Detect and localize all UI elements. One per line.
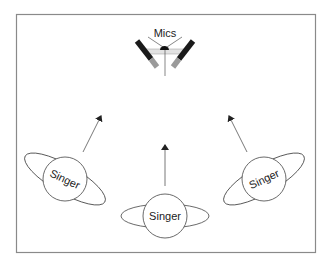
singer-center-label: Singer <box>149 210 181 222</box>
mics-label: Mics <box>154 27 177 39</box>
stage-diagram: Mics Singer Singer Singer <box>0 0 326 263</box>
